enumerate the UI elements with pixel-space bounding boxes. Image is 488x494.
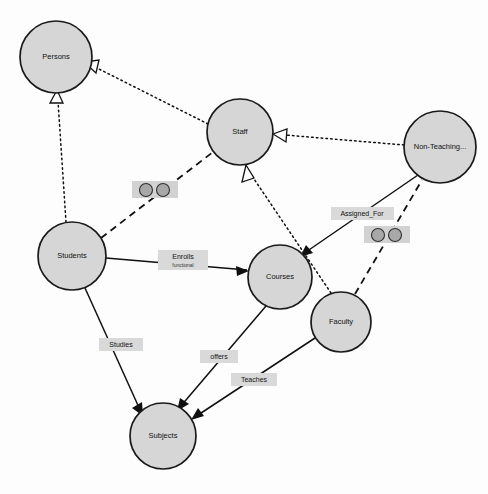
inheritance-arrowhead-icon <box>273 129 287 142</box>
node-shape <box>38 222 106 290</box>
edge-line <box>95 67 208 124</box>
inheritance-arrowhead-icon <box>242 165 254 182</box>
edge-label-text: Enrolls <box>172 253 194 260</box>
arrowhead-icon <box>191 408 204 420</box>
edge-label-teaches[interactable]: Teaches <box>231 373 277 386</box>
ontology-graph[interactable]: Persons Staff Non-Teaching... Students C… <box>0 0 488 494</box>
edge-students-to-persons[interactable] <box>50 90 66 222</box>
circle-dot-icon <box>140 184 153 197</box>
node-shape <box>311 292 371 352</box>
edge-label-enrolls[interactable]: Enrolls functional <box>158 250 208 270</box>
marker-background <box>132 181 178 198</box>
node-staff[interactable]: Staff <box>207 99 273 165</box>
arrowhead-icon <box>236 266 249 276</box>
cardinality-marker-students-staff[interactable] <box>132 181 178 198</box>
node-shape <box>248 245 312 309</box>
edge-label-subtext: functional <box>172 262 193 268</box>
node-shape <box>20 21 92 93</box>
edge-label-text: Studies <box>109 341 133 348</box>
edge-label-text: Assigned_For <box>340 210 384 218</box>
edge-label-text: Teaches <box>241 376 268 383</box>
cardinality-marker-faculty-nonteaching[interactable] <box>364 226 410 243</box>
node-persons[interactable]: Persons <box>20 21 92 93</box>
node-shape <box>404 111 476 183</box>
edge-line <box>58 101 66 222</box>
edge-nonteaching-to-staff[interactable] <box>273 129 404 145</box>
edge-label-studies[interactable]: Studies <box>99 338 143 351</box>
node-shape <box>130 403 196 469</box>
edge-label-text: offers <box>210 353 228 360</box>
node-non-teaching[interactable]: Non-Teaching... <box>404 111 476 183</box>
node-subjects[interactable]: Subjects <box>130 403 196 469</box>
node-students[interactable]: Students <box>38 222 106 290</box>
marker-background <box>364 226 410 243</box>
circle-dot-icon <box>389 229 402 242</box>
edge-students-to-subjects[interactable] <box>85 288 143 416</box>
node-shape <box>207 99 273 165</box>
node-courses[interactable]: Courses <box>248 245 312 309</box>
node-faculty[interactable]: Faculty <box>311 292 371 352</box>
edge-staff-to-persons[interactable] <box>84 60 208 124</box>
circle-dot-icon <box>157 184 170 197</box>
edge-label-assigned-for[interactable]: Assigned_For <box>331 207 394 220</box>
edge-line <box>285 135 404 145</box>
diagram-canvas[interactable]: Persons Staff Non-Teaching... Students C… <box>0 0 488 494</box>
edge-label-offers[interactable]: offers <box>200 350 238 363</box>
node-layer: Persons Staff Non-Teaching... Students C… <box>20 21 476 469</box>
circle-dot-icon <box>372 229 385 242</box>
